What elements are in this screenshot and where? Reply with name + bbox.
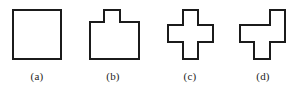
shape-figure: (a) (b) (c) (d)	[0, 0, 303, 95]
shape-square-a	[13, 10, 61, 59]
shape-plus-cross-c	[168, 10, 213, 59]
caption-c: (c)	[184, 70, 197, 83]
caption-b: (b)	[106, 70, 119, 83]
shape-square-with-top-tab-b	[90, 10, 139, 59]
caption-a: (a)	[31, 70, 44, 83]
shape-offset-cross-d	[240, 10, 285, 59]
caption-d: (d)	[256, 70, 269, 83]
